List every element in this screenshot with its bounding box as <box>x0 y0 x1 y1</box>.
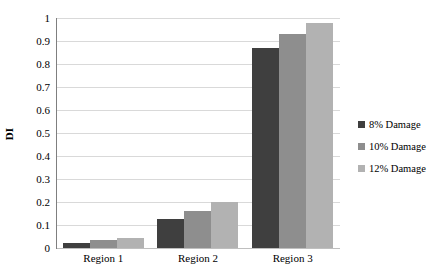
y-axis-tick-label: 0.2 <box>36 197 50 208</box>
x-axis-tick-label: Region 1 <box>83 252 123 264</box>
x-axis-tick-label: Region 2 <box>178 252 218 264</box>
legend-swatch-icon <box>358 165 365 172</box>
legend-item[interactable]: 10% Damage <box>358 138 442 155</box>
y-axis-tick-label: 0.5 <box>36 128 50 139</box>
plot-area <box>56 18 340 248</box>
legend-swatch-icon <box>358 121 365 128</box>
gridline <box>56 248 340 249</box>
y-axis-tick-label: 0.8 <box>36 59 50 70</box>
legend-item[interactable]: 12% Damage <box>358 160 442 177</box>
chart-legend: 8% Damage10% Damage12% Damage <box>358 116 442 182</box>
legend-label: 10% Damage <box>369 141 426 152</box>
legend-item[interactable]: 8% Damage <box>358 116 442 133</box>
y-axis-tick-label: 0.7 <box>36 82 50 93</box>
bar-group <box>56 18 151 248</box>
x-axis-tick-label: Region 3 <box>273 252 313 264</box>
bar <box>63 243 90 248</box>
legend-label: 12% Damage <box>369 163 426 174</box>
bar <box>184 211 211 248</box>
y-axis-tick-label: 0 <box>45 243 51 254</box>
bar <box>117 238 144 248</box>
y-axis-tick-label: 0.9 <box>36 36 50 47</box>
bars-layer <box>56 18 340 248</box>
bar-group <box>245 18 340 248</box>
bar <box>211 202 238 248</box>
y-axis-tick-label: 0.4 <box>36 151 50 162</box>
bar <box>90 240 117 248</box>
bar <box>279 34 306 248</box>
legend-label: 8% Damage <box>369 119 421 130</box>
bar <box>157 219 184 248</box>
y-axis-tick-labels: 00.10.20.30.40.50.60.70.80.91 <box>16 18 54 248</box>
bar-group <box>151 18 246 248</box>
legend-swatch-icon <box>358 143 365 150</box>
bar <box>306 23 333 248</box>
y-axis-tick-label: 1 <box>45 13 51 24</box>
y-axis-tick-label: 0.1 <box>36 220 50 231</box>
bar-chart: DI 00.10.20.30.40.50.60.70.80.91 Region … <box>0 0 442 280</box>
bar <box>252 48 279 248</box>
y-axis-title: DI <box>3 125 15 143</box>
y-axis-tick-label: 0.3 <box>36 174 50 185</box>
x-axis-tick-labels: Region 1Region 2Region 3 <box>56 252 340 272</box>
y-axis-line <box>56 18 57 249</box>
y-axis-tick-label: 0.6 <box>36 105 50 116</box>
